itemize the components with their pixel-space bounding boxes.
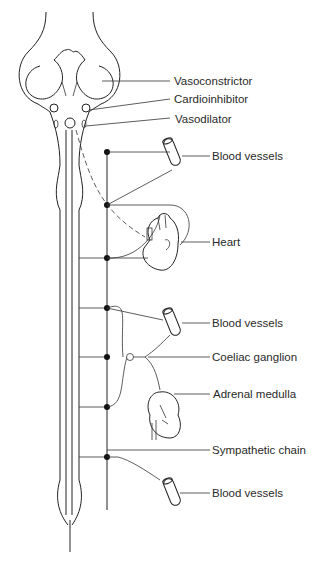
autonomic-diagram: Vasoconstrictor Cardioinhibitor Vasodila…: [0, 0, 317, 563]
label-adrenal-medulla: Adrenal medulla: [213, 388, 297, 400]
adrenal-kidney-icon: [148, 392, 180, 440]
nerve-fibres: [107, 152, 189, 480]
label-heart: Heart: [212, 236, 241, 248]
label-cardioinhibitor: Cardioinhibitor: [174, 93, 248, 105]
label-blood-vessels-lower: Blood vessels: [212, 487, 283, 499]
label-blood-vessels-upper: Blood vessels: [212, 150, 283, 162]
vagus-nerve: [76, 130, 145, 237]
left-hemisphere: [26, 60, 63, 99]
vasoconstrictor-nucleus-right: [82, 104, 90, 112]
label-blood-vessels-middle: Blood vessels: [212, 317, 283, 329]
brain: [19, 12, 120, 112]
vasoconstrictor-nucleus-left: [50, 104, 58, 112]
label-sympathetic-chain: Sympathetic chain: [212, 444, 306, 456]
blood-vessel-icon-2: [162, 307, 182, 337]
blood-vessel-icon-3: [162, 477, 182, 507]
label-vasodilator: Vasodilator: [175, 113, 232, 125]
cardioinhibitor-nucleus: [65, 118, 75, 128]
coeliac-ganglion-node: [127, 354, 134, 361]
leader-lines: [86, 81, 210, 493]
spinal-cord: [50, 104, 90, 552]
heart-icon: [143, 214, 179, 271]
label-coeliac-ganglion: Coeliac ganglion: [212, 351, 297, 363]
right-hemisphere: [76, 60, 113, 99]
sympathetic-chain: [79, 149, 110, 510]
label-vasoconstrictor: Vasoconstrictor: [174, 75, 253, 87]
